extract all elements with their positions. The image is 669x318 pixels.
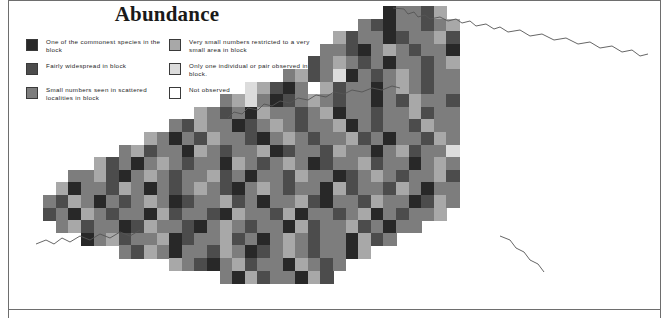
map-block-cell <box>295 170 308 183</box>
map-block-cell <box>207 157 220 170</box>
map-block-cell <box>194 170 207 183</box>
map-block-cell <box>232 233 245 246</box>
map-block-cell <box>371 119 384 132</box>
map-block-cell <box>283 182 296 195</box>
abundance-map-figure: Abundance One of the commonest species i… <box>0 0 669 318</box>
map-block-cell <box>371 145 384 158</box>
map-block-cell <box>81 182 94 195</box>
map-block-cell <box>270 220 283 233</box>
map-block-cell <box>346 233 359 246</box>
map-block-cell <box>245 271 258 284</box>
legend-label-one-individual: Only one individual or pair observed in … <box>189 62 327 79</box>
map-block-cell <box>169 220 182 233</box>
map-block-cell <box>119 245 132 258</box>
map-block-cell <box>157 208 170 221</box>
map-block-cell <box>383 69 396 82</box>
map-block-cell <box>169 145 182 158</box>
map-block-cell <box>371 157 384 170</box>
map-block-cell <box>333 195 346 208</box>
map-block-cell <box>131 195 144 208</box>
map-block-cell <box>182 132 195 145</box>
map-block-cell <box>320 195 333 208</box>
map-block-cell <box>409 56 422 69</box>
map-block-cell <box>409 170 422 183</box>
map-block-cell <box>383 19 396 32</box>
legend-label-commonest: One of the commonest species in the bloc… <box>46 38 168 55</box>
map-block-cell <box>182 245 195 258</box>
map-block-cell <box>157 132 170 145</box>
map-block-cell <box>270 170 283 183</box>
map-block-cell <box>119 233 132 246</box>
map-block-cell <box>119 170 132 183</box>
map-block-cell <box>220 195 233 208</box>
map-block-cell <box>257 208 270 221</box>
map-block-cell <box>106 195 119 208</box>
map-block-cell <box>169 119 182 132</box>
map-block-cell <box>106 170 119 183</box>
map-block-cell <box>283 245 296 258</box>
map-block-cell <box>346 170 359 183</box>
map-block-cell <box>245 220 258 233</box>
map-block-cell <box>308 233 321 246</box>
map-block-cell <box>346 107 359 120</box>
map-block-cell <box>81 208 94 221</box>
map-block-cell <box>383 31 396 44</box>
map-block-cell <box>144 195 157 208</box>
map-block-cell <box>308 208 321 221</box>
map-block-cell <box>383 157 396 170</box>
map-block-cell <box>94 195 107 208</box>
map-block-cell <box>409 31 422 44</box>
legend-label-fairly-widespread: Fairly widespread in block <box>46 62 168 70</box>
map-block-cell <box>182 195 195 208</box>
map-block-cell <box>194 208 207 221</box>
map-block-cell <box>169 245 182 258</box>
map-block-cell <box>106 182 119 195</box>
map-block-cell <box>396 132 409 145</box>
map-block-cell <box>245 208 258 221</box>
legend: One of the commonest species in the bloc… <box>26 38 326 110</box>
map-block-cell <box>421 6 434 19</box>
map-block-cell <box>245 157 258 170</box>
map-block-cell <box>245 258 258 271</box>
map-block-cell <box>232 208 245 221</box>
map-block-cell <box>383 44 396 57</box>
map-block-cell <box>270 195 283 208</box>
map-block-cell <box>371 208 384 221</box>
map-block-cell <box>131 182 144 195</box>
map-block-cell <box>308 271 321 284</box>
map-block-cell <box>119 145 132 158</box>
map-block-cell <box>207 119 220 132</box>
map-block-cell <box>409 220 422 233</box>
map-block-cell <box>371 182 384 195</box>
map-block-cell <box>346 82 359 95</box>
map-block-cell <box>169 258 182 271</box>
map-block-cell <box>194 258 207 271</box>
map-block-cell <box>358 195 371 208</box>
map-block-cell <box>396 119 409 132</box>
map-block-cell <box>169 208 182 221</box>
map-block-cell <box>157 157 170 170</box>
map-block-cell <box>232 119 245 132</box>
map-block-cell <box>295 157 308 170</box>
map-block-cell <box>383 208 396 221</box>
map-block-cell <box>182 233 195 246</box>
map-block-cell <box>144 157 157 170</box>
map-block-cell <box>320 245 333 258</box>
map-block-cell <box>257 245 270 258</box>
map-block-cell <box>144 145 157 158</box>
map-block-cell <box>182 145 195 158</box>
map-block-cell <box>409 44 422 57</box>
map-block-cell <box>371 19 384 32</box>
map-block-cell <box>157 245 170 258</box>
map-block-cell <box>131 170 144 183</box>
map-block-cell <box>320 119 333 132</box>
map-block-cell <box>220 145 233 158</box>
map-block-cell <box>94 170 107 183</box>
map-block-cell <box>421 145 434 158</box>
map-block-cell <box>283 220 296 233</box>
map-block-cell <box>383 182 396 195</box>
map-block-cell <box>283 195 296 208</box>
map-block-cell <box>207 182 220 195</box>
map-block-cell <box>434 56 447 69</box>
map-block-cell <box>220 182 233 195</box>
